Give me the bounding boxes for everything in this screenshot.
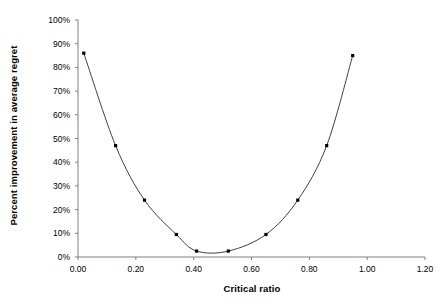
data-point-marker — [114, 144, 117, 147]
data-curve — [84, 53, 353, 253]
axis-lines — [78, 20, 425, 257]
data-point-marker — [264, 233, 267, 236]
data-point-marker — [351, 54, 354, 57]
data-point-marker — [195, 249, 198, 252]
data-point-marker — [175, 233, 178, 236]
data-point-marker — [227, 249, 230, 252]
data-point-marker — [296, 199, 299, 202]
data-markers — [82, 52, 354, 253]
data-point-marker — [325, 144, 328, 147]
chart-figure: Percent improvement in average regret Cr… — [0, 0, 445, 306]
data-point-marker — [143, 199, 146, 202]
data-point-marker — [82, 52, 85, 55]
plot-area — [0, 0, 445, 306]
